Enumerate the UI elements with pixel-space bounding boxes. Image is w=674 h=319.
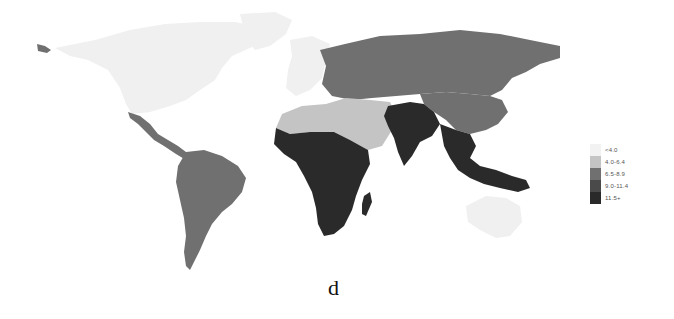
region-madagascar <box>362 192 372 216</box>
region-australia <box>466 196 522 238</box>
legend-swatch <box>590 180 601 192</box>
legend-swatch <box>590 156 601 168</box>
legend-label: 9.0-11.4 <box>605 183 628 189</box>
region-south-america <box>176 150 246 270</box>
legend-label: <4.0 <box>605 147 618 153</box>
legend-label: 6.5-8.9 <box>605 171 625 177</box>
region-north-america <box>55 22 270 114</box>
world-choropleth-map <box>0 0 674 319</box>
region-hawaii <box>37 44 51 53</box>
region-sub-saharan-africa <box>274 128 370 236</box>
legend-swatch <box>590 192 601 204</box>
legend-label: 11.5+ <box>605 195 621 201</box>
region-western-europe <box>286 36 330 96</box>
legend-swatch <box>590 144 601 156</box>
legend-item: 6.5-8.9 <box>590 168 628 180</box>
region-central-america <box>128 112 192 160</box>
legend-item: <4.0 <box>590 144 628 156</box>
region-south-asia <box>384 102 440 166</box>
legend-item: 11.5+ <box>590 192 628 204</box>
panel-label: d <box>328 275 339 301</box>
region-southeast-asia <box>440 124 530 192</box>
legend-item: 4.0-6.4 <box>590 156 628 168</box>
region-russia <box>320 30 560 100</box>
legend: <4.0 4.0-6.4 6.5-8.9 9.0-11.4 11.5+ <box>590 144 628 204</box>
legend-swatch <box>590 168 601 180</box>
legend-item: 9.0-11.4 <box>590 180 628 192</box>
legend-label: 4.0-6.4 <box>605 159 625 165</box>
